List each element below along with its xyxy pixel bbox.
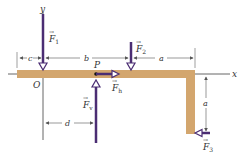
- force-fv: Fv →: [82, 80, 100, 143]
- dimension-a-vertical: a: [203, 77, 208, 131]
- vector-arrow-icon: →: [112, 77, 117, 84]
- f1-label: F1: [48, 34, 59, 45]
- dimension-d: d: [46, 119, 93, 128]
- beam: [17, 70, 195, 134]
- dimension-b-label: b: [84, 54, 89, 63]
- dimension-a-vertical-label: a: [203, 99, 208, 108]
- f2-label: F2: [135, 44, 146, 55]
- vector-arrow-icon: →: [83, 94, 88, 101]
- force-f2: F2 →: [127, 38, 146, 70]
- origin-label: O: [33, 80, 41, 90]
- force-f1: F1 →: [39, 14, 59, 70]
- fh-label: Fh: [111, 83, 122, 94]
- dimension-d-label: d: [65, 119, 70, 128]
- force-f3: F3 →: [195, 130, 213, 154]
- f3-label: F3: [202, 142, 213, 153]
- x-axis-label: x: [232, 69, 237, 79]
- dimension-c-label: c: [28, 54, 33, 63]
- beam-diagram: y x O c b a F1 →: [0, 0, 251, 157]
- force-fh: Fh →: [96, 71, 122, 95]
- dimension-a-horizontal-label: a: [159, 54, 164, 63]
- point-p-label: P: [93, 60, 101, 70]
- fv-label: Fv: [82, 100, 93, 111]
- vector-arrow-icon: →: [136, 38, 141, 45]
- y-axis-label: y: [39, 4, 46, 14]
- vector-arrow-icon: →: [49, 28, 54, 35]
- vector-arrow-icon: →: [203, 136, 208, 143]
